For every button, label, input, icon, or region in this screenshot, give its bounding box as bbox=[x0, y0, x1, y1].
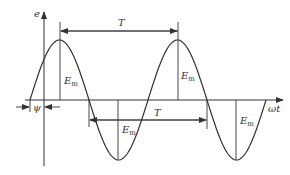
amplitude-label-4: Em bbox=[239, 115, 254, 128]
amplitude-label-1: Em bbox=[63, 75, 78, 88]
sine-wave-diagram: e ωt T T ψ Em Em Em Em bbox=[0, 0, 290, 175]
period-top-label: T bbox=[118, 17, 126, 28]
amplitude-label-2: Em bbox=[180, 70, 195, 83]
period-mid-label: T bbox=[154, 107, 162, 118]
y-axis-label: e bbox=[34, 8, 40, 19]
x-axis-label: ωt bbox=[268, 103, 281, 114]
amplitude-label-3: Em bbox=[121, 124, 136, 137]
phase-label: ψ bbox=[33, 102, 41, 113]
diagram-canvas: e ωt T T ψ Em Em Em Em bbox=[0, 0, 290, 175]
